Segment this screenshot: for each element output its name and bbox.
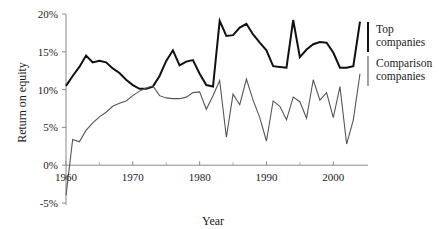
y-tick-label: 15% bbox=[38, 46, 58, 58]
legend-item-top-companies: Topcompanies bbox=[368, 22, 426, 52]
x-tick-label: 2000 bbox=[322, 171, 345, 183]
x-axis-title: Year bbox=[202, 214, 224, 228]
x-tick-label: 1970 bbox=[122, 171, 145, 183]
legend-label-line1: Comparison bbox=[376, 57, 432, 70]
x-tick-label: 1980 bbox=[189, 171, 212, 183]
legend-label-line2: companies bbox=[376, 36, 426, 49]
chart-legend: TopcompaniesComparisoncompanies bbox=[368, 22, 432, 86]
series-line-comparison-companies bbox=[66, 74, 360, 196]
y-tick-label: 5% bbox=[43, 121, 58, 133]
x-tick-label: 1990 bbox=[255, 171, 278, 183]
x-tick-label: 1960 bbox=[55, 171, 78, 183]
y-tick-label: 20% bbox=[38, 8, 58, 20]
y-tick-label: 0% bbox=[43, 159, 58, 171]
legend-label-line1: Top bbox=[376, 23, 394, 36]
chart-figure: -5%0%5%10%15%20%19601970198019902000Year… bbox=[0, 0, 439, 229]
y-axis-title: Return on equity bbox=[15, 62, 29, 143]
y-tick-label: 10% bbox=[38, 84, 58, 96]
y-tick-label: -5% bbox=[40, 197, 58, 209]
legend-item-comparison-companies: Comparisoncompanies bbox=[368, 56, 432, 86]
line-chart: -5%0%5%10%15%20%19601970198019902000Year… bbox=[0, 0, 439, 229]
axis-labels-group: -5%0%5%10%15%20%19601970198019902000Year… bbox=[15, 8, 345, 228]
data-series-group bbox=[66, 20, 360, 195]
legend-label-line2: companies bbox=[376, 70, 426, 83]
series-line-top-companies bbox=[66, 20, 360, 89]
